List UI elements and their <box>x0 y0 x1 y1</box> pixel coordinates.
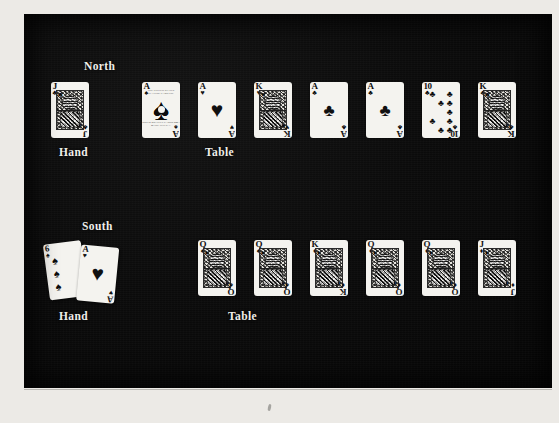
court-suit-icon: ♣ <box>58 92 63 99</box>
court-artwork: ♥ ♥ <box>259 90 287 130</box>
pip-icon: ♠ <box>53 268 60 280</box>
table-label-north: Table <box>205 146 234 158</box>
court-artwork: ♣ ♣ <box>483 90 511 130</box>
court-suit-icon: ♣ <box>485 92 490 99</box>
court-artwork: ♦ ♦ <box>371 248 399 288</box>
pip-icon: ♣ <box>429 117 435 126</box>
court-suit-icon: ♦ <box>429 250 433 257</box>
court-suit-icon: ♦ <box>317 250 321 257</box>
center-pip-icon: ♥ <box>198 100 236 121</box>
scanned-page: North Hand Table J ♣ ♣ ♣ J ♣ <box>0 0 559 423</box>
court-artwork: ♦ ♦ <box>427 248 455 288</box>
pip-layout: ♠ ♠ ♠ <box>47 254 66 294</box>
pip-icon: ♣ <box>429 90 435 99</box>
card-jack-of-clubs[interactable]: J ♣ ♣ ♣ J ♣ <box>51 82 89 138</box>
card-suit-icon: ♥ <box>82 253 89 261</box>
card-suit-icon: ♠ <box>173 123 179 130</box>
center-pip-icon: ♣ <box>310 102 348 119</box>
court-suit-icon: ♦ <box>505 279 509 286</box>
table-label-south: Table <box>228 310 257 322</box>
center-pip-icon: ♣ <box>366 102 404 119</box>
pip-icon: ♠ <box>55 281 62 293</box>
paper-speck-artifact <box>267 404 271 411</box>
card-suit-icon: ♦ <box>511 281 515 288</box>
pip-icon: ♠ <box>51 255 58 267</box>
card-suit-icon: ♣ <box>368 90 374 97</box>
card-photo-plate: North Hand Table J ♣ ♣ ♣ J ♣ <box>24 14 552 388</box>
center-pip-icon: ♥ <box>78 262 118 287</box>
card-jack-of-diamonds[interactable]: J ♦ ♦ ♦ J ♦ <box>478 240 516 296</box>
seat-label-south: South <box>82 220 113 232</box>
card-ace-of-hearts[interactable]: A ♥ ♥ A ♥ <box>76 244 119 303</box>
card-ace-of-clubs[interactable]: A ♣ ♣ A ♣ <box>310 82 348 138</box>
hand-label-south: Hand <box>59 310 88 322</box>
card-suit-icon: ♣ <box>341 123 347 130</box>
court-artwork: ♦ ♦ <box>315 248 343 288</box>
court-artwork: ♠ ♠ <box>203 248 231 288</box>
court-suit-icon: ♦ <box>485 250 489 257</box>
pip-icon: ♣ <box>438 126 444 135</box>
card-ten-of-clubs[interactable]: 10 ♣ ♣ ♣ ♣ ♣ ♣ ♣ ♣ ♣ ♣ ♣ 10 ♣ <box>422 82 460 138</box>
court-suit-icon: ♣ <box>77 121 82 128</box>
card-suit-icon: ♣ <box>397 123 403 130</box>
pip-icon: ♣ <box>438 99 444 108</box>
card-king-of-hearts[interactable]: K ♥ ♥ ♥ K ♥ <box>254 82 292 138</box>
court-artwork: ♦ ♦ <box>483 248 511 288</box>
court-artwork: ♠ ♠ <box>259 248 287 288</box>
card-king-of-clubs[interactable]: K ♣ ♣ ♣ K ♣ <box>478 82 516 138</box>
card-queen-of-spades[interactable]: Q ♠ ♠ ♠ Q ♠ <box>254 240 292 296</box>
card-king-of-diamonds[interactable]: K ♦ ♦ ♦ K ♦ <box>310 240 348 296</box>
page-bottom-rule <box>24 389 552 390</box>
court-suit-icon: ♥ <box>261 92 265 99</box>
card-ace-of-clubs[interactable]: A ♣ ♣ A ♣ <box>366 82 404 138</box>
court-suit-icon: ♦ <box>373 250 377 257</box>
card-suit-icon: ♣ <box>83 123 88 130</box>
card-suit-icon: ♣ <box>312 90 318 97</box>
card-suit-icon: ♥ <box>200 90 206 97</box>
card-suit-icon: ♥ <box>229 123 235 130</box>
card-ace-of-hearts[interactable]: A ♥ ♥ A ♥ <box>198 82 236 138</box>
card-queen-of-spades[interactable]: Q ♠ ♠ ♠ Q ♠ <box>198 240 236 296</box>
hand-label-north: Hand <box>59 146 88 158</box>
court-suit-icon: ♠ <box>261 250 265 257</box>
court-artwork: ♣ ♣ <box>56 90 84 130</box>
card-queen-of-diamonds[interactable]: Q ♦ ♦ ♦ Q ♦ <box>422 240 460 296</box>
card-queen-of-diamonds[interactable]: Q ♦ ♦ ♦ Q ♦ <box>366 240 404 296</box>
seat-label-north: North <box>84 60 115 72</box>
court-suit-icon: ♠ <box>205 250 209 257</box>
card-ace-of-spades[interactable]: A ♠ THE UNITED STATES PLAYING CARD CO. ♠… <box>142 82 180 138</box>
